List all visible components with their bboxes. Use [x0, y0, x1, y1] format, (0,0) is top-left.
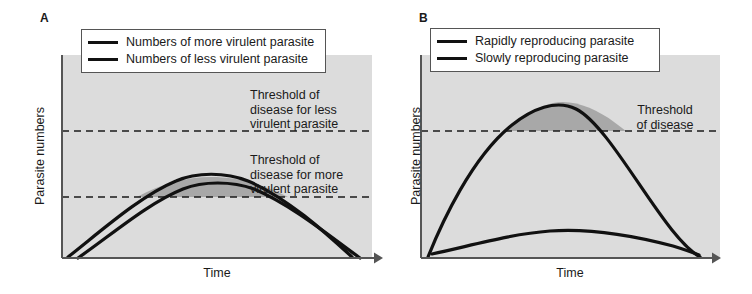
- solid-line-swatch-icon: [88, 58, 118, 61]
- parasite-virulence-figure: A Numbers of more virulent parasite: [0, 0, 752, 294]
- legend-item-label: Slowly reproducing parasite: [475, 50, 629, 67]
- threshold-label-line: disease for more: [250, 168, 343, 183]
- panel-a-threshold-less-virulent-label: Threshold of disease for less virulent p…: [250, 88, 338, 132]
- threshold-label-line: Threshold of: [250, 88, 338, 103]
- legend-item: Numbers of more virulent parasite: [88, 34, 317, 51]
- panel-a-x-axis-label: Time: [152, 266, 282, 280]
- threshold-label-line: Threshold: [620, 103, 710, 118]
- panel-b-y-axis-label: Parasite numbers: [409, 107, 423, 205]
- panel-b-legend: Rapidly reproducing parasite Slowly repr…: [430, 28, 660, 72]
- panel-a-legend: Numbers of more virulent parasite Number…: [81, 29, 326, 73]
- legend-item: Numbers of less virulent parasite: [88, 51, 317, 68]
- legend-item-label: Numbers of more virulent parasite: [126, 34, 314, 51]
- threshold-label-line: of disease: [620, 118, 710, 133]
- solid-line-swatch-icon: [437, 57, 467, 60]
- panel-a: A Numbers of more virulent parasite: [0, 0, 390, 294]
- panel-b-x-axis-label: Time: [505, 266, 635, 280]
- solid-line-swatch-icon: [88, 41, 118, 44]
- legend-item: Slowly reproducing parasite: [437, 50, 651, 67]
- threshold-label-line: virulent parasite: [250, 117, 338, 132]
- panel-b-plot-area: [421, 55, 720, 258]
- threshold-label-line: Threshold of: [250, 153, 343, 168]
- panel-b-threshold-label: Threshold of disease: [620, 103, 710, 132]
- legend-item-label: Numbers of less virulent parasite: [126, 51, 308, 68]
- threshold-label-line: disease for less: [250, 103, 338, 118]
- panel-a-threshold-more-virulent-label: Threshold of disease for more virulent p…: [250, 153, 343, 197]
- legend-item: Rapidly reproducing parasite: [437, 33, 651, 50]
- threshold-label-line: virulent parasite: [250, 182, 343, 197]
- panel-a-y-axis-label: Parasite numbers: [33, 107, 47, 205]
- solid-line-swatch-icon: [437, 40, 467, 43]
- panel-a-x-axis-arrow: [374, 253, 383, 264]
- panel-b: B Rapidly reproducing parasite: [390, 0, 752, 294]
- legend-item-label: Rapidly reproducing parasite: [475, 33, 634, 50]
